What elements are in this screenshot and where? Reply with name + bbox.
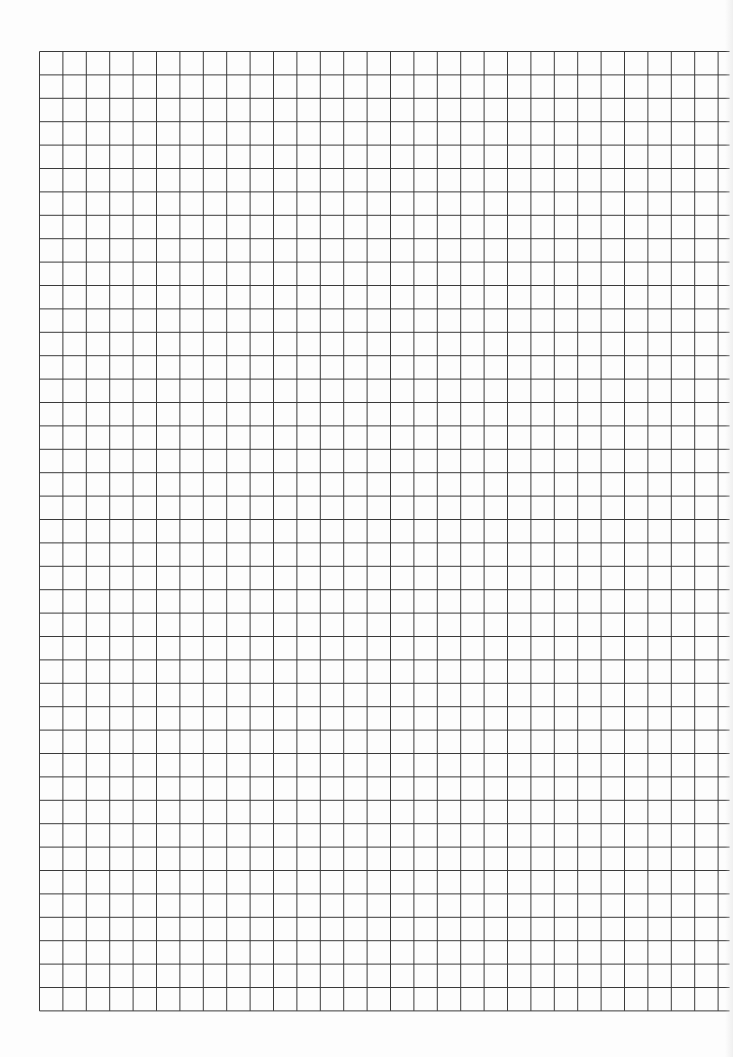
- grid-lines: [39, 51, 732, 1012]
- grid: [39, 51, 732, 1012]
- graph-paper-page: [0, 0, 733, 1057]
- page-edge-shadow: [725, 0, 733, 1057]
